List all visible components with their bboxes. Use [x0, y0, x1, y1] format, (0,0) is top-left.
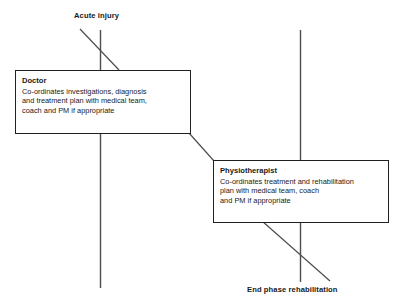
doctor-role-title: Doctor [22, 76, 184, 86]
physiotherapist-desc-line-2: plan with medical team, coach [220, 186, 382, 196]
physiotherapist-role-box: Physiotherapist Co-ordinates treatment a… [213, 160, 389, 223]
connector-acute-injury-to-doctor [80, 29, 119, 70]
connector-doctor-to-physiotherapist [189, 133, 214, 161]
doctor-desc-line-1: Co-ordinates investigations, diagnosis [22, 87, 184, 97]
doctor-role-description: Co-ordinates investigations, diagnosis a… [22, 87, 184, 116]
connector-physiotherapist-to-end-phase [262, 221, 330, 281]
clinical-pathway-diagram: Acute injury Doctor Co-ordinates investi… [0, 0, 403, 306]
doctor-desc-line-3: coach and PM if appropriate [22, 106, 184, 116]
physiotherapist-desc-line-1: Co-ordinates treatment and rehabilitatio… [220, 177, 382, 187]
physiotherapist-desc-line-3: and PM if appropriate [220, 196, 382, 206]
physiotherapist-role-description: Co-ordinates treatment and rehabilitatio… [220, 177, 382, 206]
end-phase-rehabilitation-label: End phase rehabilitation [247, 285, 338, 294]
doctor-role-box: Doctor Co-ordinates investigations, diag… [15, 70, 191, 134]
physiotherapist-role-title: Physiotherapist [220, 166, 382, 176]
acute-injury-label: Acute injury [74, 11, 119, 20]
diagram-connector-layer [0, 0, 403, 306]
doctor-desc-line-2: and treatment plan with medical team, [22, 96, 184, 106]
